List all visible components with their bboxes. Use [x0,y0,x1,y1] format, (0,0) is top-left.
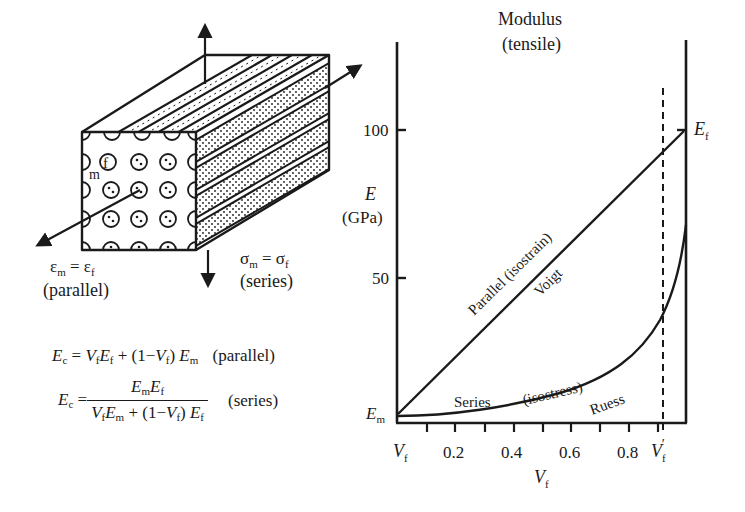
matrix-label: m [89,167,100,182]
parallel-equation: Ec = VfEf + (1−Vf) Em (parallel) [52,347,275,366]
chart-title-line2: (tensile) [502,35,561,53]
series-fraction: EmEf VfEm + (1−Vf) Ef [87,378,208,423]
x-prime-label: Vf′ [651,442,669,464]
x-tick-label-0.2: 0.2 [443,444,464,461]
ef-label: Ef [694,120,709,142]
modulus-chart: Parallel (isostrain) Voigt Series (isost… [396,40,687,432]
series-condition: σm = σf [240,250,289,270]
x-origin-label: Vf [393,442,408,464]
composite-cube: f m [70,10,450,258]
y-tick-label-100: 100 [363,122,389,139]
chart-title-line1: Modulus [498,10,562,28]
y-tick-label-50: 50 [372,270,389,287]
x-tick-label-0.4: 0.4 [501,444,522,461]
parallel-caption: (parallel) [43,281,109,299]
diagram-canvas: f m Par [0,0,745,512]
x-tick-label-0.8: 0.8 [617,444,638,461]
x-axis-label: Vf [534,468,549,490]
y-axis-unit: (GPa) [342,209,383,226]
series-label: Series [454,394,491,410]
parallel-condition: εm = εf [50,258,95,278]
em-label: Em [366,405,385,425]
isostress-label: (isostress) [521,379,584,409]
x-tick-label-0.6: 0.6 [559,444,580,461]
diagonal-arrow-in-icon [325,66,360,88]
ruess-label: Ruess [588,390,627,417]
series-equation: Ec = EmEf VfEm + (1−Vf) Ef (series) [58,378,278,423]
voigt-label: Voigt [531,265,566,300]
y-axis-label: E [365,185,376,203]
fiber-label: f [103,155,108,171]
parallel-voigt-line [398,131,684,414]
x-ticks [427,423,658,432]
parallel-label: Parallel (isostrain) [465,229,556,319]
series-caption: (series) [240,272,293,290]
